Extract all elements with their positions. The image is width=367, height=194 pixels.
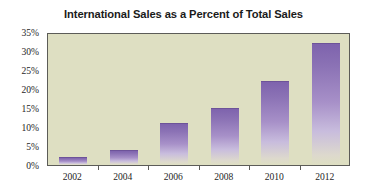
- bar-slot: [200, 34, 251, 165]
- bar-2004[interactable]: [110, 150, 138, 165]
- x-tick-label: 2006: [164, 171, 183, 182]
- bar-2012[interactable]: [312, 43, 340, 165]
- bar-slot: [48, 34, 99, 165]
- x-tick-label: 2004: [113, 171, 132, 182]
- y-tick-label: 0%: [26, 161, 39, 171]
- x-tick-label: 2010: [265, 171, 284, 182]
- y-tick-label: 25%: [21, 66, 39, 76]
- x-tick-label: 2002: [63, 171, 82, 182]
- y-tick-label: 20%: [21, 85, 39, 95]
- y-tick-label: 10%: [21, 123, 39, 133]
- x-tick-mark: [199, 166, 200, 170]
- bar-2006[interactable]: [160, 123, 188, 165]
- bar-slot: [99, 34, 150, 165]
- bar-chart-figure: International Sales as a Percent of Tota…: [0, 0, 367, 194]
- bar-2002[interactable]: [59, 157, 87, 165]
- chart-title: International Sales as a Percent of Tota…: [0, 8, 367, 20]
- y-tick-label: 30%: [21, 47, 39, 57]
- x-tick-label: 2008: [214, 171, 233, 182]
- y-tick-label: 35%: [21, 28, 39, 38]
- y-tick-label: 5%: [26, 142, 39, 152]
- x-tick-mark: [148, 166, 149, 170]
- bar-slot: [301, 34, 352, 165]
- bar-slot: [250, 34, 301, 165]
- x-tick-mark: [249, 166, 250, 170]
- bar-slot: [149, 34, 200, 165]
- x-tick-mark: [300, 166, 301, 170]
- bar-2008[interactable]: [211, 108, 239, 165]
- plot-inner: [48, 34, 349, 165]
- x-tick-mark: [98, 166, 99, 170]
- y-axis-labels: 0%5%10%15%20%25%30%35%: [0, 33, 43, 166]
- x-tick-label: 2012: [315, 171, 334, 182]
- bar-2010[interactable]: [261, 81, 289, 165]
- x-axis-labels: 200220042006200820102012: [47, 171, 350, 187]
- plot-area: [47, 33, 350, 166]
- y-tick-label: 15%: [21, 104, 39, 114]
